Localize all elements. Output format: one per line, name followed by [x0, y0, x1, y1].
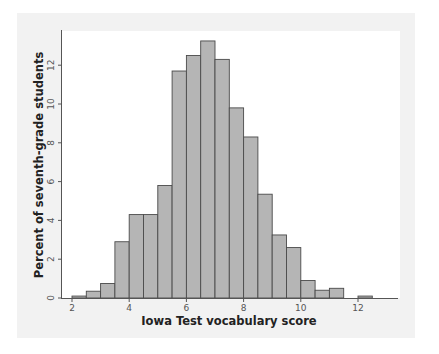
y-axis-title: Percent of seventh-grade students	[32, 52, 46, 279]
x-tick-label: 8	[241, 303, 247, 313]
histogram-bar	[129, 215, 143, 298]
histogram-bar	[172, 71, 186, 298]
histogram-bar	[144, 215, 158, 298]
histogram-bar	[86, 291, 100, 298]
histogram-bar	[72, 296, 86, 298]
histogram-bar	[301, 281, 315, 298]
histogram-bar	[115, 242, 129, 298]
x-axis-title: Iowa Test vocabulary score	[141, 314, 317, 328]
y-tick-label: 2	[46, 256, 56, 262]
y-tick-label: 6	[46, 178, 56, 184]
y-tick-label: 4	[46, 217, 56, 223]
histogram-bar	[329, 288, 343, 298]
histogram-bar	[201, 41, 215, 298]
x-tick-label: 4	[126, 303, 132, 313]
histogram-bar	[158, 185, 172, 298]
y-tick-label: 10	[46, 98, 56, 110]
histogram-chart: 02468101224681012 Iowa Test vocabulary s…	[0, 0, 439, 354]
histogram-bar	[258, 194, 272, 298]
x-tick-label: 12	[352, 303, 363, 313]
histogram-bar	[358, 296, 372, 298]
histogram-bar	[272, 235, 286, 298]
histogram-bar	[186, 56, 200, 299]
histogram-bar	[315, 290, 329, 298]
histogram-bars	[72, 41, 372, 298]
histogram-bar	[244, 137, 258, 298]
histogram-bar	[287, 248, 301, 298]
x-tick-label: 10	[295, 303, 307, 313]
y-tick-label: 8	[46, 140, 56, 146]
histogram-bar	[215, 59, 229, 298]
histogram-bar	[229, 108, 243, 298]
y-tick-label: 0	[46, 295, 56, 301]
x-tick-label: 2	[69, 303, 75, 313]
histogram-bar	[101, 283, 115, 298]
x-tick-label: 6	[184, 303, 190, 313]
y-tick-label: 12	[46, 59, 56, 70]
